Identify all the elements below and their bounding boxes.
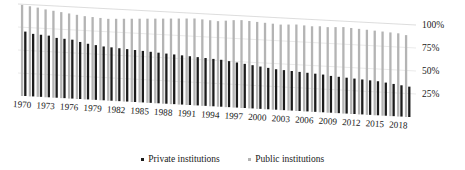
bar-public[interactable] <box>381 32 383 116</box>
bar-private[interactable] <box>126 49 128 101</box>
bar-private[interactable] <box>228 61 230 107</box>
bar-public[interactable] <box>84 16 86 99</box>
bar-private[interactable] <box>118 48 120 101</box>
bar-public[interactable] <box>374 31 376 116</box>
bar-public[interactable] <box>170 19 172 105</box>
bar-public[interactable] <box>350 28 352 114</box>
bar-private[interactable] <box>251 65 253 108</box>
bar-private[interactable] <box>40 35 42 97</box>
bar-public[interactable] <box>115 19 117 101</box>
bar-public[interactable] <box>311 26 313 112</box>
bar-public[interactable] <box>99 18 101 100</box>
bar-public[interactable] <box>201 19 203 105</box>
bar-public[interactable] <box>397 33 399 116</box>
bar-private[interactable] <box>71 40 73 99</box>
bar-public[interactable] <box>123 19 125 102</box>
bar-private[interactable] <box>236 62 238 107</box>
bar-public[interactable] <box>319 26 321 112</box>
bar-public[interactable] <box>37 8 39 97</box>
bar-private[interactable] <box>392 84 394 116</box>
bar-private[interactable] <box>283 70 285 110</box>
bar-private[interactable] <box>306 73 308 112</box>
bar-private[interactable] <box>259 67 261 109</box>
bar-private[interactable] <box>322 75 324 113</box>
bar-private[interactable] <box>87 44 89 100</box>
bar-public[interactable] <box>272 24 274 110</box>
bar-private[interactable] <box>267 68 269 109</box>
legend-item-private[interactable]: Private institutions <box>141 155 220 165</box>
bar-public[interactable] <box>233 20 235 107</box>
bar-private[interactable] <box>165 54 167 104</box>
bar-private[interactable] <box>244 64 246 108</box>
bar-private[interactable] <box>32 34 34 97</box>
bar-public[interactable] <box>52 11 54 98</box>
bar-private[interactable] <box>157 53 159 104</box>
bar-private[interactable] <box>400 85 402 116</box>
bar-public[interactable] <box>342 27 344 113</box>
bar-public[interactable] <box>240 20 242 108</box>
bar-public[interactable] <box>107 19 109 101</box>
bar-public[interactable] <box>178 19 180 105</box>
bar-public[interactable] <box>366 30 368 115</box>
bar-private[interactable] <box>314 74 316 112</box>
bar-public[interactable] <box>44 9 46 97</box>
bar-private[interactable] <box>48 36 50 98</box>
bar-private[interactable] <box>103 46 105 100</box>
bar-private[interactable] <box>181 55 183 104</box>
bar-private[interactable] <box>353 79 355 114</box>
bar-public[interactable] <box>21 5 23 96</box>
legend-item-public[interactable]: Public institutions <box>248 155 324 165</box>
bar-private[interactable] <box>385 83 387 116</box>
bar-public[interactable] <box>162 19 164 104</box>
bar-public[interactable] <box>248 21 250 108</box>
bar-public[interactable] <box>389 32 391 116</box>
bar-public[interactable] <box>217 21 219 107</box>
bar-public[interactable] <box>193 18 195 105</box>
bar-public[interactable] <box>334 27 336 113</box>
bar-private[interactable] <box>110 47 112 100</box>
bar-public[interactable] <box>303 25 305 111</box>
bar-private[interactable] <box>197 57 199 105</box>
bar-private[interactable] <box>189 56 191 105</box>
bar-private[interactable] <box>345 78 347 114</box>
bar-public[interactable] <box>138 19 140 103</box>
bar-private[interactable] <box>142 51 144 103</box>
bar-private[interactable] <box>291 71 293 111</box>
bar-public[interactable] <box>358 29 360 115</box>
bar-private[interactable] <box>361 79 363 114</box>
bar-public[interactable] <box>29 6 31 96</box>
bar-private[interactable] <box>79 42 81 99</box>
bar-private[interactable] <box>150 52 152 103</box>
bar-public[interactable] <box>280 25 282 111</box>
bar-public[interactable] <box>76 15 78 99</box>
bar-public[interactable] <box>60 12 62 98</box>
bar-private[interactable] <box>275 69 277 109</box>
bar-private[interactable] <box>220 60 222 107</box>
bar-private[interactable] <box>204 58 206 106</box>
bar-public[interactable] <box>68 13 70 98</box>
bar-private[interactable] <box>298 72 300 111</box>
bar-private[interactable] <box>212 59 214 106</box>
bar-private[interactable] <box>377 81 379 115</box>
bar-private[interactable] <box>369 80 371 115</box>
bar-public[interactable] <box>131 19 133 102</box>
bar-private[interactable] <box>56 38 58 98</box>
bar-public[interactable] <box>327 27 329 113</box>
bar-public[interactable] <box>185 19 187 105</box>
bar-public[interactable] <box>225 21 227 107</box>
bar-public[interactable] <box>146 19 148 103</box>
bar-public[interactable] <box>154 19 156 104</box>
bar-private[interactable] <box>134 50 136 102</box>
bar-private[interactable] <box>24 32 26 96</box>
bar-private[interactable] <box>173 54 175 104</box>
bar-public[interactable] <box>91 17 93 100</box>
bar-public[interactable] <box>256 22 258 109</box>
bar-private[interactable] <box>95 45 97 100</box>
bar-public[interactable] <box>405 35 407 117</box>
bar-private[interactable] <box>408 87 410 117</box>
bar-private[interactable] <box>63 39 65 98</box>
bar-public[interactable] <box>287 25 289 111</box>
bar-public[interactable] <box>264 23 266 109</box>
bar-private[interactable] <box>338 77 340 113</box>
bar-public[interactable] <box>209 20 211 106</box>
